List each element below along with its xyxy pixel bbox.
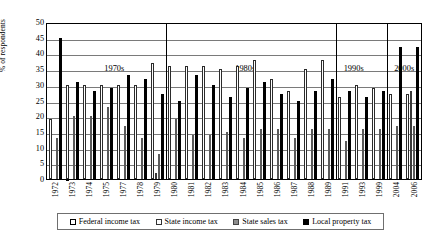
bar-group — [132, 24, 149, 179]
legend-item[interactable]: State sales tax — [233, 217, 287, 226]
bar-group — [251, 24, 268, 179]
x-tick-label: 1985 — [255, 182, 264, 197]
bar — [396, 126, 399, 179]
bar — [331, 79, 334, 179]
bar — [107, 107, 110, 179]
bar-group — [336, 24, 353, 179]
bar — [151, 63, 154, 179]
y-tick-label: 20 — [36, 113, 44, 121]
x-tick-label: 1987 — [289, 182, 298, 197]
x-tick-label: 1975 — [101, 182, 110, 197]
bar-group — [404, 24, 421, 179]
x-tick-label: 1982 — [204, 182, 213, 197]
bar — [195, 75, 198, 179]
bar — [144, 79, 147, 179]
y-tick-label: 0 — [40, 176, 44, 184]
bar — [338, 97, 341, 179]
legend-swatch-icon — [233, 219, 239, 225]
bar — [202, 66, 205, 179]
bar-group — [387, 24, 404, 179]
bar — [355, 85, 358, 179]
x-tick-label: 2006 — [409, 182, 418, 197]
bar-group — [183, 24, 200, 179]
bar-group — [234, 24, 251, 179]
y-tick-label: 25 — [36, 98, 44, 106]
bar — [389, 94, 392, 179]
bar — [260, 129, 263, 179]
x-axis-tick-labels: 1972197319741975197719781979198019811982… — [46, 181, 422, 211]
y-tick-label: 10 — [36, 145, 44, 153]
bar — [253, 60, 256, 179]
bar — [141, 138, 144, 179]
bar-group — [47, 24, 64, 179]
x-tick-label: 1991 — [341, 182, 350, 197]
y-tick-label: 45 — [36, 35, 44, 43]
bar — [178, 101, 181, 180]
x-tick-cell: 2006 — [405, 181, 422, 211]
bar — [297, 101, 300, 180]
bar — [83, 85, 86, 179]
bar — [365, 97, 368, 179]
bar-group — [64, 24, 81, 179]
bar-group — [285, 24, 302, 179]
bar — [127, 75, 130, 179]
x-tick-label: 1986 — [272, 182, 281, 197]
legend-item[interactable]: Federal income tax — [70, 217, 140, 226]
y-axis-title: % of respondents — [0, 0, 7, 72]
bar-group — [268, 24, 285, 179]
bar — [229, 97, 232, 179]
bar — [155, 173, 158, 179]
x-tick-cell: 1989 — [320, 181, 337, 211]
bar — [100, 85, 103, 179]
x-tick-label: 1984 — [238, 182, 247, 197]
legend-label: Federal income tax — [79, 217, 140, 226]
x-tick-label: 1999 — [375, 182, 384, 197]
x-tick-cell: 1972 — [46, 181, 63, 211]
x-tick-cell: 1983 — [217, 181, 234, 211]
x-tick-cell: 1988 — [302, 181, 319, 211]
x-tick-cell: 1982 — [200, 181, 217, 211]
bar — [219, 69, 222, 179]
bar — [246, 88, 249, 179]
x-tick-cell: 1986 — [268, 181, 285, 211]
bar-group — [200, 24, 217, 179]
bar — [372, 88, 375, 179]
bar — [236, 66, 239, 179]
legend-item[interactable]: State income tax — [156, 217, 218, 226]
bar-group — [319, 24, 336, 179]
legend-swatch-icon — [70, 219, 76, 225]
x-tick-label: 1989 — [324, 182, 333, 197]
x-tick-label: 1972 — [50, 182, 59, 197]
bar — [212, 85, 215, 179]
bar — [56, 138, 59, 179]
y-tick-label: 5 — [40, 160, 44, 168]
bar — [124, 126, 127, 179]
x-tick-label: 1973 — [67, 182, 76, 197]
x-tick-cell: 1991 — [337, 181, 354, 211]
bar — [66, 85, 69, 179]
bar — [294, 138, 297, 179]
y-tick-label: 35 — [36, 66, 44, 74]
legend-item[interactable]: Local property tax — [303, 217, 371, 226]
x-tick-cell: 1999 — [371, 181, 388, 211]
bar — [328, 129, 331, 179]
legend-label: State sales tax — [242, 217, 287, 226]
bar — [416, 47, 419, 179]
x-tick-label: 1978 — [136, 182, 145, 197]
bar — [117, 85, 120, 179]
bar — [185, 66, 188, 179]
bar — [280, 94, 283, 179]
x-tick-cell: 1987 — [285, 181, 302, 211]
bar — [345, 141, 348, 179]
y-tick-label: 50 — [36, 19, 44, 27]
bar — [226, 132, 229, 179]
x-tick-cell: 1981 — [183, 181, 200, 211]
bar — [406, 94, 409, 179]
bar — [410, 91, 413, 179]
bar-group — [149, 24, 166, 179]
bar-group — [81, 24, 98, 179]
bar — [168, 66, 171, 179]
bar — [263, 82, 266, 179]
y-tick-label: 40 — [36, 50, 44, 58]
bar-group — [302, 24, 319, 179]
